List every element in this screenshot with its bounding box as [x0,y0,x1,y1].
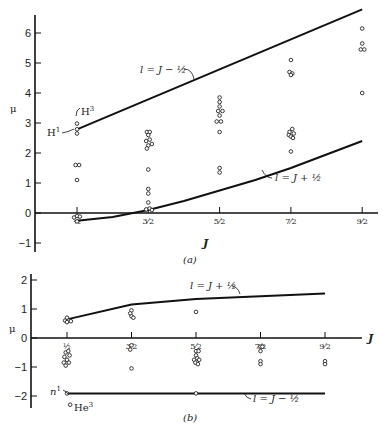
y-tick-label: 0 [25,207,31,219]
y-tick-label: 5 [25,57,31,69]
data-point [69,319,73,323]
lower-line-label-a: l = J + ½ [275,172,321,183]
data-point [130,367,134,371]
upper-line-label-a: l = J − ½ [140,64,186,75]
data-point [261,345,265,349]
he3-label: He3 [74,401,93,413]
y-tick-label: 0 [21,332,27,344]
upper-line-label-b: l = J + ½ [190,280,236,291]
data-point-He³ [68,403,72,407]
n1-label: n1 [50,385,61,397]
data-point [221,109,225,113]
x-tick-label: 5⁄2 [214,217,226,226]
data-point [147,192,151,196]
data-point [194,310,198,314]
data-point [218,130,222,134]
data-point [259,349,263,353]
data-point [360,27,364,31]
data-point [216,109,220,113]
data-point [64,364,68,368]
panel-a: −10123456 ½3⁄25⁄27⁄29⁄2 μ J (a) l = J − … [10,9,378,265]
data-point [289,73,293,77]
schmidt-line-upper [67,294,325,320]
y-tick-label: 1 [21,303,27,315]
x-tick-label: 9⁄2 [319,342,331,351]
h3-leader [76,108,80,116]
data-point [67,361,71,365]
schmidt-lines-figure: −10123456 ½3⁄25⁄27⁄29⁄2 μ J (a) l = J − … [0,0,383,433]
data-point [144,208,148,212]
data-point [75,220,79,224]
y-tick-label: 2 [21,274,27,286]
y-tick-label: 3 [25,117,31,129]
x-tick-label: 9⁄2 [356,217,368,226]
data-point [130,344,134,348]
y-tick-label: 4 [25,87,31,99]
data-point [75,178,79,182]
caption-a: (a) [183,254,197,265]
y-axis-title-b: μ [9,323,16,334]
data-point [148,138,152,142]
data-point [323,362,327,366]
data-point [289,150,293,154]
data-point [291,127,295,131]
y-tick-label: 2 [25,147,31,159]
data-point [77,163,81,167]
y-tick-label: −1 [18,237,31,249]
panel-b: −2−1012 ½3⁄25⁄27⁄29⁄2 μ J (b) l = J + ½ … [9,274,374,423]
data-point [289,58,293,62]
data-point [360,91,364,95]
y-tick-label: −2 [14,390,27,402]
y-axis-title-a: μ [10,103,17,114]
data-point [67,349,71,353]
data-point [132,316,136,320]
data-point [218,100,222,104]
data-point [194,392,198,396]
data-point [145,147,149,151]
data-point [150,208,154,212]
data-point [363,48,367,52]
data-point [147,133,151,137]
data-point [144,139,148,143]
data-point [147,201,151,205]
data-point [292,132,296,136]
x-axis-title-a: J [201,237,209,250]
h1-leader [62,129,74,133]
data-point [218,166,222,170]
y-tick-label: 6 [25,27,31,39]
x-axis-title-b: J [366,332,374,345]
data-point [218,105,222,109]
lower-line-label-b: l = J − ½ [253,393,299,404]
x-tick-label: 7⁄2 [285,217,297,226]
data-point [218,171,222,175]
data-point [147,187,151,191]
y-tick-label: 1 [25,177,31,189]
data-point [360,42,364,46]
data-point [197,358,201,362]
data-point [218,96,222,100]
h1-label: H1 [47,126,60,138]
data-point [219,120,223,124]
data-point [128,348,132,352]
h3-label: H3 [81,105,94,117]
data-point [75,132,79,136]
data-point [218,114,222,118]
caption-b: (b) [183,412,197,423]
data-point [259,362,263,366]
data-point [147,168,151,172]
data-point [68,354,72,358]
data-point-H³ [75,122,79,126]
x-tick-label: 3⁄2 [143,217,155,226]
data-point [197,349,201,353]
data-point [215,120,219,124]
data-point [291,136,295,140]
data-point [150,142,154,146]
data-point [78,215,82,219]
data-point [65,320,69,324]
data-point [196,362,200,366]
y-tick-label: −1 [14,361,27,373]
data-point-H¹ [75,128,79,132]
